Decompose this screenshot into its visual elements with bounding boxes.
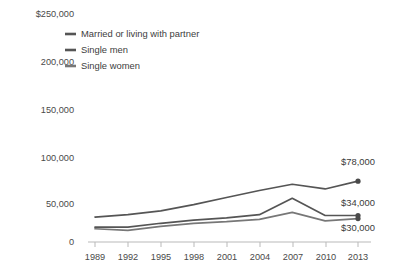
- x-tick-label-2010: 2010: [316, 252, 336, 262]
- legend-label-single-men: Single men: [81, 44, 128, 55]
- x-tick-label-1989: 1989: [85, 252, 105, 262]
- endpoint-label-single-women: $30,000: [341, 222, 375, 233]
- x-tick-label-1995: 1995: [151, 252, 171, 262]
- x-tick-label-1998: 1998: [184, 252, 204, 262]
- y-tick-label-100000: 100,000: [41, 153, 74, 163]
- legend-label-single-women: Single women: [81, 60, 140, 71]
- series-line-single-men: [95, 198, 358, 227]
- series-group: [95, 179, 361, 231]
- endpoint-label-married: $78,000: [341, 156, 375, 167]
- x-axis-ticks: [95, 242, 358, 247]
- endpoint-labels: $78,000 $34,000 $30,000: [341, 156, 375, 233]
- x-axis: 1989 1992 1995 1998 2001 2004 2007 2010 …: [85, 242, 371, 262]
- legend-label-married: Married or living with partner: [81, 28, 199, 39]
- x-tick-label-2007: 2007: [283, 252, 303, 262]
- y-tick-label-0: 0: [69, 237, 74, 247]
- x-tick-label-1992: 1992: [118, 252, 138, 262]
- x-tick-label-2001: 2001: [217, 252, 237, 262]
- y-tick-label-150000: 150,000: [41, 105, 74, 115]
- x-tick-label-2004: 2004: [250, 252, 270, 262]
- endpoint-dot-married: [355, 179, 360, 184]
- endpoint-dot-single-women: [355, 216, 360, 221]
- y-tick-label-250000: $250,000: [36, 9, 74, 19]
- line-chart: $250,000 200,000 150,000 100,000 50,000 …: [0, 0, 409, 278]
- chart-canvas: $250,000 200,000 150,000 100,000 50,000 …: [0, 0, 409, 278]
- x-tick-label-2013: 2013: [348, 252, 368, 262]
- chart-legend: Married or living with partner Single me…: [65, 28, 199, 71]
- y-tick-label-50000: 50,000: [46, 199, 74, 209]
- endpoint-label-single-men: $34,000: [341, 197, 375, 208]
- y-axis-labels: $250,000 200,000 150,000 100,000 50,000 …: [36, 9, 74, 247]
- series-line-single-women: [95, 212, 358, 230]
- x-axis-labels: 1989 1992 1995 1998 2001 2004 2007 2010 …: [85, 252, 368, 262]
